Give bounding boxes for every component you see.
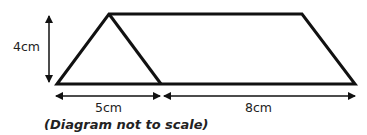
height-label: 4cm [13, 39, 40, 54]
left-base-label: 5cm [95, 100, 122, 115]
scale-note: (Diagram not to scale) [44, 117, 209, 132]
right-base-label: 8cm [245, 100, 272, 115]
triangle-inner-edge [109, 14, 161, 84]
geometry-diagram [0, 0, 367, 135]
outer-shape [57, 14, 355, 84]
